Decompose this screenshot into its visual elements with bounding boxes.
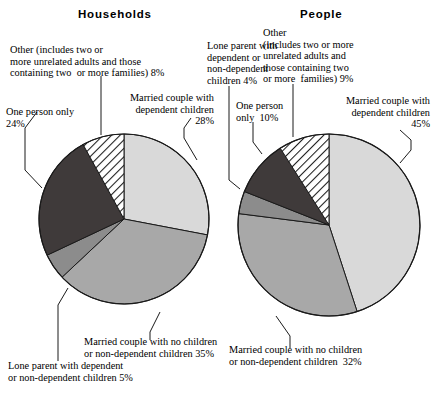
leader-households-lone-parent	[58, 288, 68, 361]
label-people-one-person: One person only 10%	[236, 100, 283, 123]
label-people-married-no-dependent: Married couple with no children or non-d…	[229, 344, 362, 367]
pie-slice-households-married-dependent[interactable]	[124, 134, 209, 235]
figure-root: Households People	[0, 0, 442, 394]
label-people-married-dependent: Married couple with dependent children 4…	[320, 95, 430, 130]
label-households-lone-parent: Lone parent with dependent or non-depend…	[8, 360, 133, 383]
leader-people-married-dependent	[400, 130, 411, 163]
label-people-lone-parent: Lone parent with dependent or non-depend…	[207, 40, 277, 86]
leader-people-one-person	[253, 122, 262, 154]
pie-households	[39, 134, 209, 304]
label-households-one-person: One person only 24%	[6, 106, 74, 129]
label-households-other: Other (includes two or more unrelated ad…	[10, 44, 164, 79]
label-households-married-dependent: Married couple with dependent children 2…	[108, 92, 214, 127]
pie-people	[238, 134, 420, 316]
label-households-married-no-dependent: Married couple with no children or non-d…	[84, 336, 217, 359]
